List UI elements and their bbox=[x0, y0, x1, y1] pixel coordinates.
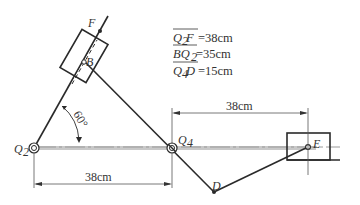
point-f bbox=[98, 29, 102, 33]
slider-block-b bbox=[60, 29, 108, 82]
link-q2-f bbox=[34, 16, 108, 148]
angle-label: 60° bbox=[70, 108, 91, 130]
label-d: D bbox=[211, 179, 221, 193]
note-q4d: Q 4 D =15cm bbox=[173, 62, 233, 81]
svg-text:=35cm: =35cm bbox=[196, 47, 231, 61]
label-e: E bbox=[312, 137, 321, 151]
pivot-q2-icon bbox=[29, 143, 39, 153]
svg-text:=15cm: =15cm bbox=[198, 64, 233, 78]
dimension-bottom-label: 38cm bbox=[85, 170, 112, 184]
svg-text:F: F bbox=[185, 31, 194, 45]
linkage-diagram: 60° 38cm 38cm F B Q 2 Q 4 D E Q 2 F =38c… bbox=[0, 0, 360, 205]
svg-text:=38cm: =38cm bbox=[198, 31, 233, 45]
label-b: B bbox=[86, 55, 94, 69]
svg-text:2: 2 bbox=[23, 145, 29, 159]
dimension-top-label: 38cm bbox=[226, 99, 253, 113]
svg-text:Q: Q bbox=[178, 133, 187, 147]
svg-text:D: D bbox=[185, 64, 195, 78]
note-bq2: BQ 2 =35cm bbox=[173, 45, 231, 64]
svg-text:4: 4 bbox=[187, 136, 193, 150]
svg-text:BQ: BQ bbox=[173, 47, 190, 61]
svg-text:Q: Q bbox=[14, 142, 23, 156]
pivot-q4-icon bbox=[167, 143, 177, 153]
svg-text:Q: Q bbox=[173, 64, 182, 78]
label-f: F bbox=[87, 16, 96, 30]
label-q2: Q 2 bbox=[14, 142, 29, 159]
link-d-e bbox=[214, 147, 308, 192]
svg-text:Q: Q bbox=[173, 31, 182, 45]
